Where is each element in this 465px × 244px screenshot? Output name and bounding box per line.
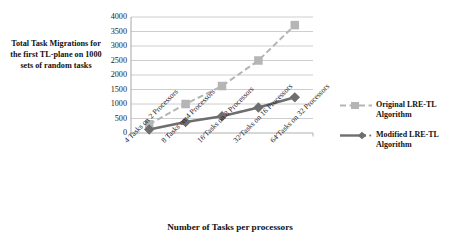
- legend-item-modified[interactable]: Modified LRE-TL Algorithm: [340, 130, 462, 150]
- chart-legend: Original LRE-TL Algorithm Modified LRE-T…: [340, 100, 462, 160]
- legend-label-original-line1: Original LRE-TL: [376, 100, 437, 109]
- chart-container: Total Task Migrations for the first TL-p…: [0, 0, 465, 244]
- legend-label-modified-line2: Algorithm: [376, 140, 412, 149]
- legend-swatch-modified-icon: [340, 131, 372, 140]
- legend-item-original[interactable]: Original LRE-TL Algorithm: [340, 100, 462, 120]
- legend-label-original-line2: Algorithm: [376, 110, 412, 119]
- legend-swatch-original-icon: [340, 101, 372, 110]
- legend-label-modified-line1: Modified LRE-TL: [376, 130, 439, 139]
- x-axis-title: Number of Tasks per processors: [110, 222, 350, 232]
